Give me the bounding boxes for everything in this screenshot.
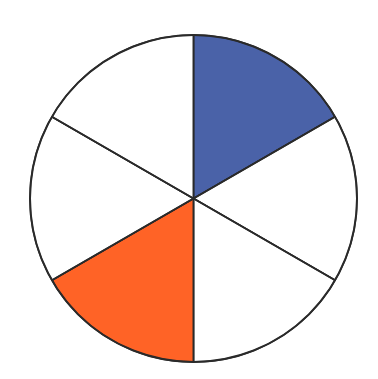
fraction-circle-diagram	[0, 0, 378, 379]
fraction-circle-svg	[0, 0, 378, 379]
